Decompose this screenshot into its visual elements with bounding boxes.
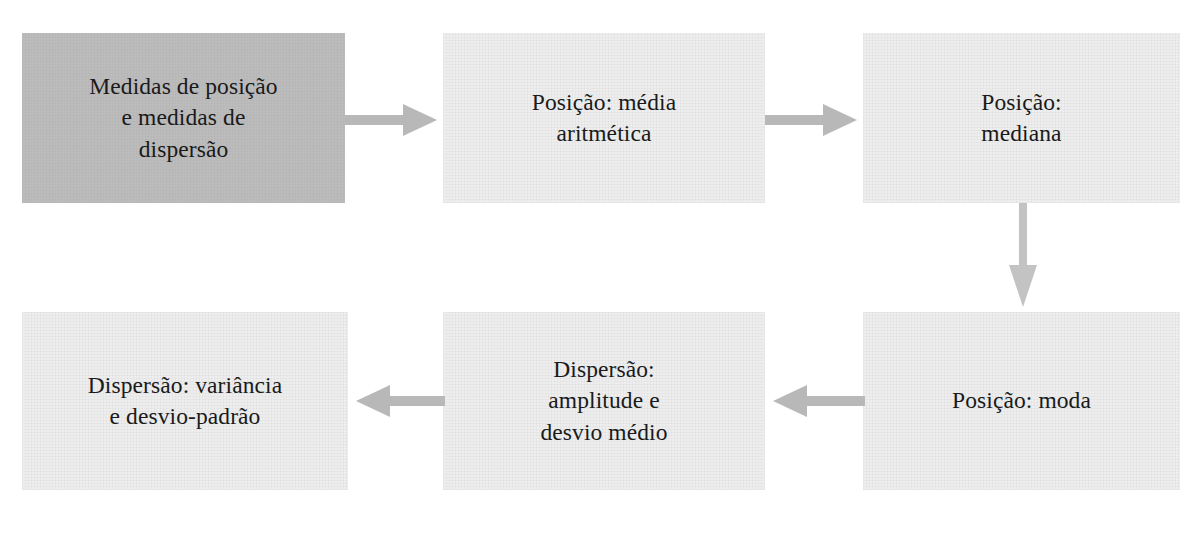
flow-node-dispersao-amplitude-desvio-medio[interactable]: Dispersão: amplitude e desvio médio	[443, 312, 765, 490]
flow-node-posicao-mediana[interactable]: Posição: mediana	[863, 33, 1180, 203]
flowchart-canvas: Medidas de posição e medidas de dispersã…	[0, 0, 1202, 539]
flow-node-medidas-posicao-dispersao[interactable]: Medidas de posição e medidas de dispersã…	[22, 33, 345, 203]
flow-node-label: Posição: mediana	[981, 87, 1061, 150]
flow-node-label: Dispersão: amplitude e desvio médio	[540, 354, 667, 448]
arrow-left-icon-node5-to-node4	[348, 379, 445, 423]
flow-node-label: Posição: moda	[952, 385, 1091, 416]
arrow-left-icon-node6-to-node5	[765, 379, 865, 423]
flow-node-label: Dispersão: variância e desvio-padrão	[88, 370, 283, 433]
arrow-down-icon-node3-to-node6	[1000, 203, 1046, 313]
flow-node-dispersao-variancia-desvio-padrao[interactable]: Dispersão: variância e desvio-padrão	[22, 312, 348, 490]
flow-node-label: Medidas de posição e medidas de dispersã…	[89, 71, 277, 165]
arrow-right-icon-node1-to-node2	[345, 98, 445, 142]
arrow-right-icon-node2-to-node3	[765, 98, 865, 142]
flow-node-label: Posição: média aritmética	[532, 87, 676, 150]
flow-node-posicao-moda[interactable]: Posição: moda	[863, 312, 1180, 490]
flow-node-posicao-media-aritmetica[interactable]: Posição: média aritmética	[443, 33, 765, 203]
